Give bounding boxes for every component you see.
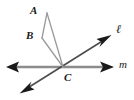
point-label-b: B [26,30,33,41]
geometry-canvas [0,0,134,100]
point-label-a: A [30,5,37,16]
ray-ac [47,13,63,67]
line-label-m: m [119,59,127,70]
point-label-c: C [64,72,71,83]
line-ell [20,35,112,94]
line-ell-upper-arrowhead [97,35,112,47]
line-label-ell: ℓ [116,23,121,35]
line-ell-lower-arrowhead [20,82,35,94]
ray-bc [42,38,63,67]
segment-ab [42,13,47,38]
angle-sliver-abc [42,13,63,67]
geometry-figure: A B C ℓ m [0,0,134,100]
